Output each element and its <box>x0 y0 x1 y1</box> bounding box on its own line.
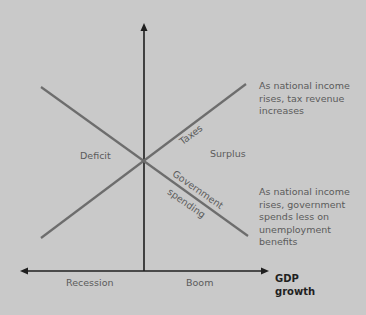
x-axis-right-arrow-icon <box>261 268 269 275</box>
x-axis-title-line1: GDP <box>275 272 335 285</box>
recession-label: Recession <box>66 277 113 289</box>
boom-label: Boom <box>186 277 213 289</box>
x-axis-left-arrow-icon <box>20 268 28 275</box>
y-axis-arrow-icon <box>141 23 148 31</box>
surplus-label: Surplus <box>210 148 246 160</box>
fiscal-balance-diagram: Deficit Surplus Taxes Government spendin… <box>0 0 366 315</box>
x-axis-title: GDP growth <box>275 272 335 298</box>
x-axis-title-line2: growth <box>275 285 335 298</box>
taxes-note: As national income rises, tax revenue in… <box>259 80 366 118</box>
deficit-label: Deficit <box>80 150 111 162</box>
spending-note: As national income rises, government spe… <box>259 186 366 249</box>
diagram-canvas <box>0 0 366 315</box>
